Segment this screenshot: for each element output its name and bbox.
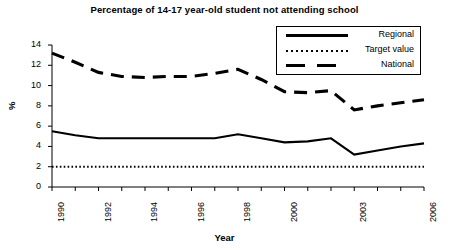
- x-axis-tick-label: 1994: [149, 202, 159, 222]
- x-axis-tick-label: 2006: [428, 202, 438, 222]
- dotted-line-swatch: [286, 43, 348, 58]
- y-axis-tick-label: 4: [19, 140, 41, 150]
- x-axis-tick-label: 1996: [196, 202, 206, 222]
- y-axis-ticks: [48, 45, 52, 187]
- y-axis-tick-label: 8: [19, 100, 41, 110]
- chart-container: Percentage of 14-17 year-old student not…: [0, 0, 449, 250]
- legend-label-target-value: Target value: [365, 44, 414, 54]
- x-axis-tick-label: 1990: [56, 202, 66, 222]
- legend-label-national: National: [381, 59, 414, 69]
- legend-item-regional: Regional: [277, 28, 420, 43]
- legend-item-target-value: Target value: [277, 43, 420, 58]
- y-axis-tick-label: 2: [19, 161, 41, 171]
- y-axis-tick-label: 14: [19, 39, 41, 49]
- x-axis-tick-label: 2003: [358, 202, 368, 222]
- x-axis-tick-label: 1992: [103, 202, 113, 222]
- solid-line-swatch: [286, 28, 348, 43]
- dashed-line-swatch: [286, 58, 348, 73]
- x-axis-tick-label: 1998: [242, 202, 252, 222]
- x-axis-ticks: [52, 187, 424, 191]
- y-axis-tick-label: 12: [19, 59, 41, 69]
- legend-label-regional: Regional: [378, 29, 414, 39]
- series-line-regional: [52, 131, 424, 154]
- chart-legend: Regional Target value National: [276, 26, 421, 75]
- x-axis-tick-label: 2000: [289, 202, 299, 222]
- legend-item-national: National: [277, 58, 420, 73]
- y-axis-tick-label: 0: [19, 181, 41, 191]
- y-axis-tick-label: 6: [19, 120, 41, 130]
- y-axis-tick-label: 10: [19, 80, 41, 90]
